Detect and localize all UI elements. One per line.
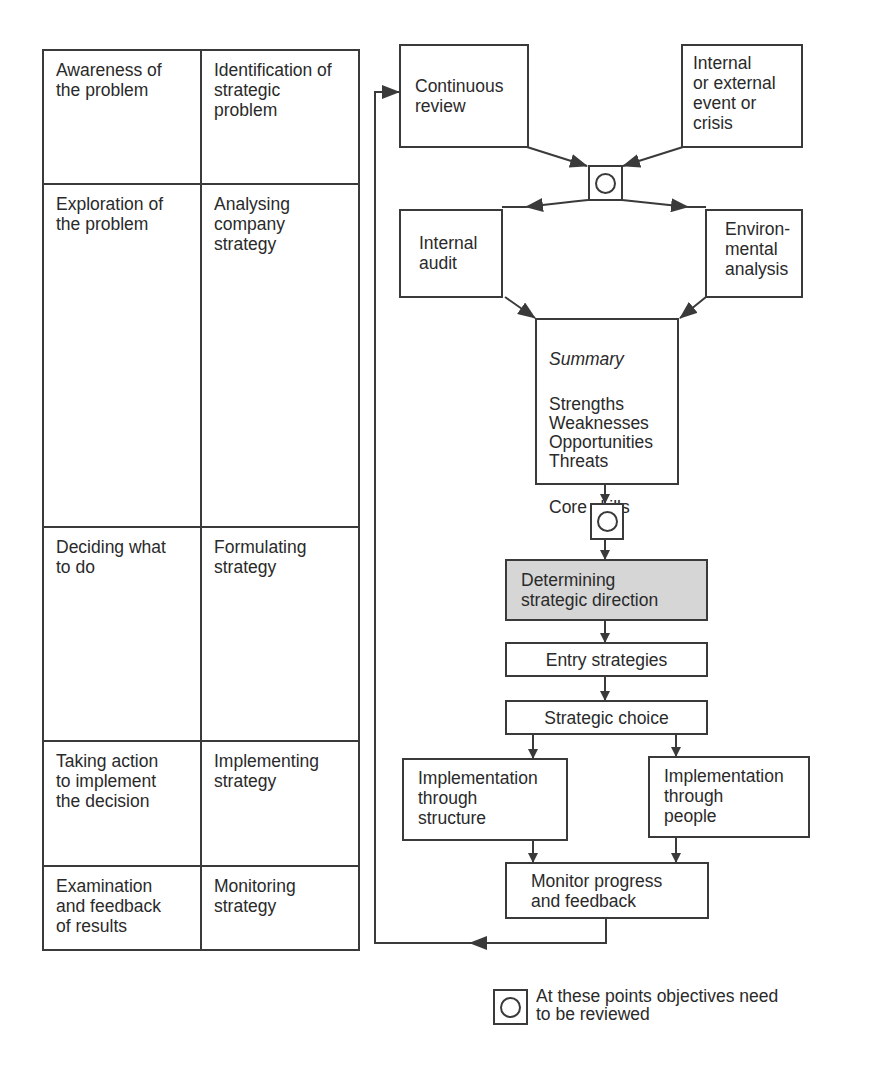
monitor-progress-box: Monitor progress and feedback	[505, 862, 709, 919]
review-point-icon	[588, 165, 623, 201]
legend-review-point-icon	[493, 989, 528, 1025]
connector-lines	[0, 0, 876, 1086]
implementation-structure-box: Implementation through structure	[402, 758, 568, 841]
review-point-icon	[590, 503, 624, 540]
entry-strategies-box: Entry strategies	[505, 642, 708, 677]
strategic-choice-box: Strategic choice	[505, 700, 708, 735]
strategic-direction-box: Determining strategic direction	[505, 559, 708, 621]
summary-box: Summary Strengths Weaknesses Opportuniti…	[535, 318, 679, 485]
environmental-analysis-box: Environ- mental analysis	[705, 209, 803, 298]
implementation-people-box: Implementation through people	[648, 756, 810, 838]
continuous-review-box: Continuous review	[399, 44, 529, 148]
legend-text: At these points objectives need to be re…	[536, 987, 778, 1023]
internal-audit-box: Internal audit	[399, 209, 503, 298]
swot-list: Strengths Weaknesses Opportunities Threa…	[549, 395, 665, 471]
summary-title: Summary	[549, 349, 665, 369]
event-or-crisis-box: Internal or external event or crisis	[681, 44, 803, 148]
